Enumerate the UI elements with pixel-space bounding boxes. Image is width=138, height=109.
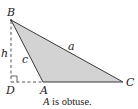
vertex-label-c: C xyxy=(126,76,135,89)
vertex-b-point xyxy=(10,19,12,21)
caption-text: is obtuse. xyxy=(49,96,91,107)
triangle-abc xyxy=(11,20,123,82)
obtuse-triangle-diagram: B D A C h c a A is obtuse. xyxy=(0,0,138,109)
vertex-label-d: D xyxy=(5,84,15,97)
caption: A is obtuse. xyxy=(42,96,92,107)
side-label-a: a xyxy=(68,40,75,53)
side-label-c: c xyxy=(22,53,28,66)
vertex-label-b: B xyxy=(6,6,15,19)
right-angle-marker xyxy=(11,76,17,82)
side-label-h: h xyxy=(1,47,8,60)
